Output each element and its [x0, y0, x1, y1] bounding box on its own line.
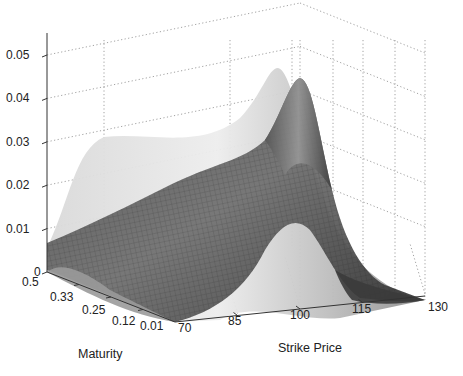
- z-tick-label: 0.03: [6, 136, 29, 148]
- z-tick-label: 0.01: [6, 223, 29, 235]
- maturity-tick-label: 0.01: [140, 320, 163, 332]
- strike-tick-label: 115: [352, 303, 371, 315]
- maturity-axis-title: Maturity: [78, 348, 122, 361]
- maturity-tick-label: 0.5: [22, 276, 39, 288]
- strike-tick-label: 100: [290, 309, 310, 321]
- z-tick-label: 0.02: [6, 179, 29, 191]
- maturity-tick-label: 0.25: [82, 304, 105, 316]
- strike-axis-title: Strike Price: [278, 342, 342, 355]
- maturity-tick-label: 0.12: [112, 315, 135, 327]
- strike-tick-label: 130: [428, 301, 448, 313]
- surfaces: [47, 68, 425, 322]
- strike-tick-label: 85: [228, 315, 241, 327]
- z-tick-label: 0.05: [6, 49, 29, 61]
- strike-tick-label: 70: [178, 322, 191, 334]
- maturity-tick-label: 0.33: [50, 291, 73, 303]
- z-tick-label: 0.04: [6, 92, 29, 104]
